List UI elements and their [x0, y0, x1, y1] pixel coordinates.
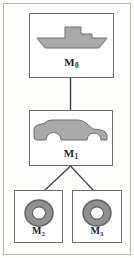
wheel-icon	[23, 198, 55, 228]
part-hierarchy-figure: M0 M1 M2	[0, 0, 134, 258]
boat-icon	[35, 25, 109, 51]
node-m0-label-text: M	[64, 56, 75, 68]
node-m2-label-subscript: 2	[42, 230, 46, 237]
node-m0[interactable]: M0	[29, 13, 114, 78]
node-m3[interactable]: M3	[72, 190, 122, 243]
node-m3-label-text: M	[90, 225, 100, 236]
node-m3-label: M3	[73, 226, 121, 236]
node-m2-label-text: M	[32, 225, 42, 236]
car-icon	[33, 118, 109, 147]
node-m1[interactable]: M1	[29, 110, 113, 166]
node-m1-label-text: M	[64, 147, 75, 159]
node-m1-label-subscript: 1	[74, 153, 78, 161]
node-m0-icon-slot	[30, 19, 113, 57]
wheel-icon	[81, 198, 113, 228]
node-m0-label: M0	[30, 57, 113, 68]
node-m1-label: M1	[30, 148, 112, 159]
node-m3-label-subscript: 3	[100, 230, 104, 237]
node-m1-icon-slot	[30, 114, 112, 150]
node-m2[interactable]: M2	[14, 190, 63, 243]
node-m2-label: M2	[15, 226, 62, 236]
node-m0-label-subscript: 0	[75, 62, 79, 70]
